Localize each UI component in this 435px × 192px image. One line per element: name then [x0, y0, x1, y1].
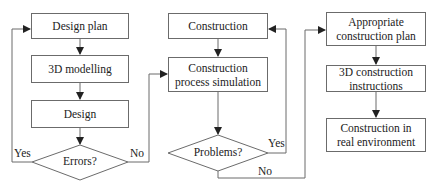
step-design-plan: Design plan — [31, 13, 129, 39]
problems-yes-label: Yes — [268, 137, 285, 149]
step-label-line2: real environment — [337, 135, 415, 149]
step-construction-in-real-environment: Construction in real environment — [326, 118, 426, 152]
decision-problems: Problems? — [183, 146, 253, 158]
step-label-line2: construction plan — [336, 29, 416, 43]
step-label: 3D modelling — [48, 62, 112, 76]
step-3d-modelling: 3D modelling — [31, 55, 129, 83]
step-label-line1: Construction — [188, 61, 247, 75]
problems-no-label: No — [258, 165, 272, 177]
step-appropriate-construction-plan: Appropriate construction plan — [326, 12, 426, 46]
decision-errors: Errors? — [50, 155, 110, 167]
step-label-line1: Construction in — [340, 121, 411, 135]
step-label-line1: Appropriate — [348, 15, 404, 29]
errors-no-label: No — [130, 147, 144, 159]
errors-yes-label: Yes — [14, 147, 31, 159]
step-label-line2: process simulation — [175, 75, 261, 89]
step-label: Design plan — [52, 19, 107, 33]
step-label: Design — [64, 107, 97, 121]
step-construction: Construction — [168, 13, 268, 39]
step-3d-construction-instructions: 3D construction instructions — [326, 65, 426, 92]
step-design: Design — [31, 100, 129, 128]
step-label: Construction — [188, 19, 247, 33]
step-label-line1: 3D construction — [339, 65, 413, 79]
step-label-line2: instructions — [349, 79, 403, 93]
step-construction-process-simulation: Construction process simulation — [168, 57, 268, 92]
